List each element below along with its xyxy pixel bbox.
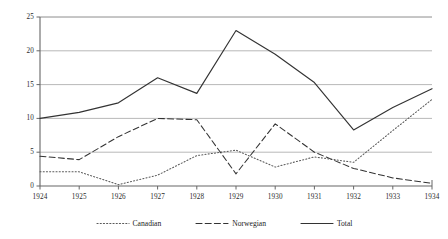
x-axis-label-1928: 1928 [189, 193, 204, 201]
chart-plot-area [0, 0, 448, 239]
x-axis-label-1925: 1925 [72, 193, 87, 201]
x-axis-label-1927: 1927 [150, 193, 165, 201]
legend-label: Canadian [133, 219, 162, 228]
x-axis-label-1932: 1932 [346, 193, 361, 201]
y-axis-label-5: 5 [12, 148, 34, 156]
legend-swatch-dashed [195, 220, 229, 227]
y-axis-label-25: 25 [12, 13, 34, 21]
x-axis-label-1934: 1934 [425, 193, 440, 201]
legend-label: Norwegian [232, 219, 266, 228]
y-axis-label-10: 10 [12, 114, 34, 122]
axis-ticks [37, 17, 433, 190]
legend-label: Total [337, 219, 353, 228]
x-axis-label-1929: 1929 [229, 193, 244, 201]
legend-swatch-solid [300, 220, 334, 227]
line-chart: 0510152025 19241925192619271928192919301… [0, 0, 448, 239]
chart-legend: CanadianNorwegianTotal [0, 213, 448, 233]
series-line-norwegian [40, 118, 432, 183]
x-axis-label-1930: 1930 [268, 193, 283, 201]
series-lines [40, 31, 432, 185]
x-axis-label-1931: 1931 [307, 193, 322, 201]
gridlines [40, 17, 432, 152]
legend-item-canadian: Canadian [96, 219, 162, 228]
legend-swatch-dotted [96, 220, 130, 227]
y-axis-label-20: 20 [12, 47, 34, 55]
y-axis-label-15: 15 [12, 81, 34, 89]
y-axis-label-0: 0 [12, 182, 34, 190]
x-axis-label-1924: 1924 [33, 193, 48, 201]
x-axis-label-1933: 1933 [385, 193, 400, 201]
legend-item-total: Total [300, 219, 353, 228]
series-line-total [40, 31, 432, 130]
legend-item-norwegian: Norwegian [195, 219, 266, 228]
axis-lines [40, 17, 432, 186]
x-axis-label-1926: 1926 [111, 193, 126, 201]
series-line-canadian [40, 99, 432, 184]
